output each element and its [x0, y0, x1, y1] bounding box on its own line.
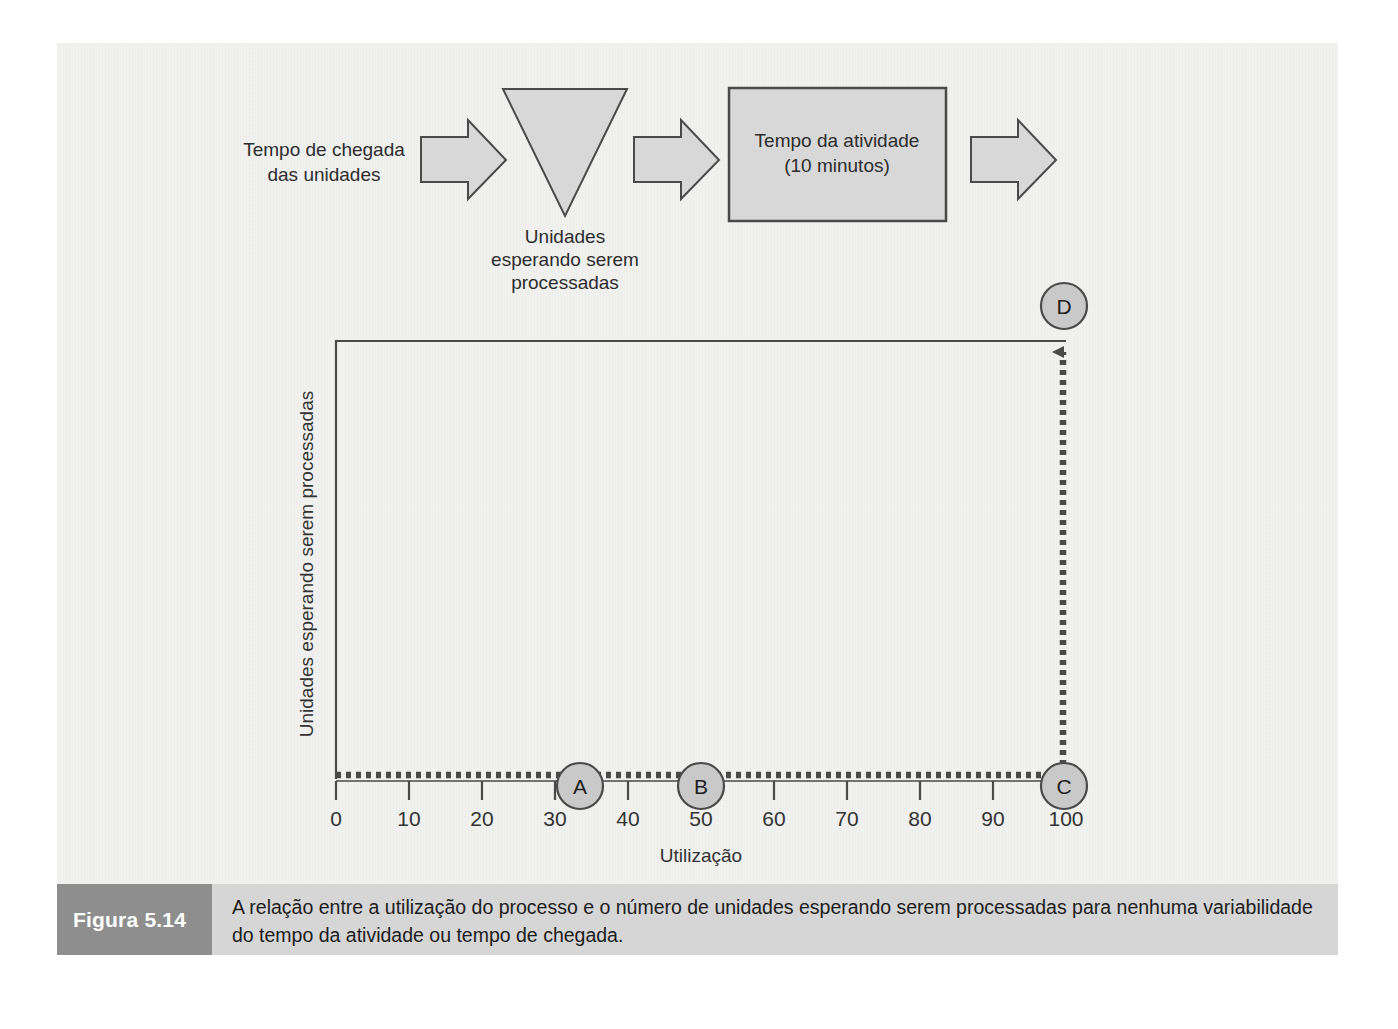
figure-number-badge: Figura 5.14	[57, 884, 212, 955]
figure-caption-bar: Figura 5.14 A relação entre a utilização…	[57, 884, 1338, 955]
figure-caption-text: A relação entre a utilização do processo…	[212, 884, 1338, 955]
scanned-page-sheet	[57, 43, 1338, 955]
